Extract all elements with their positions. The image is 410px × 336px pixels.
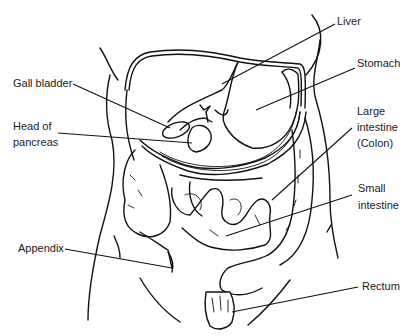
label-gall-bladder: Gall bladder <box>13 76 72 91</box>
digestive-system-diagram: Liver Stomach Large intestine (Colon) Ga… <box>0 0 410 336</box>
leader-gall-bladder <box>73 84 170 128</box>
label-rectum: Rectum <box>362 279 400 294</box>
label-head-of-pancreas-line1: Head of <box>13 119 52 134</box>
label-large-intestine-line3: (Colon) <box>357 136 393 151</box>
label-large-intestine-line2: intestine <box>357 120 398 135</box>
leader-rectum <box>232 287 358 312</box>
leader-large-intestine <box>272 128 352 200</box>
label-liver: Liver <box>337 14 361 29</box>
pancreas <box>188 125 211 152</box>
liver <box>125 50 305 160</box>
label-stomach: Stomach <box>357 56 400 71</box>
label-head-of-pancreas-line2: pancreas <box>13 135 58 150</box>
leader-appendix <box>65 249 172 268</box>
label-small-intestine-line2: intestine <box>358 198 399 213</box>
gall-bladder <box>160 119 191 142</box>
label-large-intestine-line1: Large <box>357 104 385 119</box>
label-appendix: Appendix <box>18 241 64 256</box>
anatomy-drawing <box>0 0 410 336</box>
small-intestine <box>172 175 271 250</box>
rectum <box>205 292 234 329</box>
label-small-intestine-line1: Small <box>358 181 386 196</box>
large-intestine <box>123 112 313 295</box>
